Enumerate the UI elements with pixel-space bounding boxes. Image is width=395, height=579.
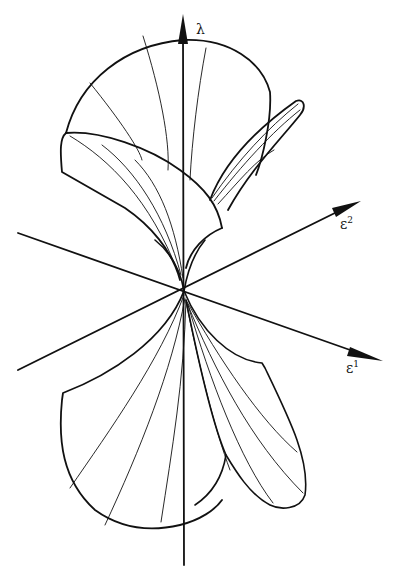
epsilon2-axis (18, 208, 345, 370)
lambda-label-text: λ (196, 21, 205, 37)
upper-back-lobe (66, 36, 270, 180)
surface-diagram (0, 0, 395, 579)
lambda-axis (183, 30, 184, 565)
epsilon2-label-sup: 2 (347, 215, 353, 225)
lower-right-lobe (184, 291, 306, 508)
lambda-arrowhead-icon (178, 14, 188, 44)
lambda-axis-label: λ (196, 22, 205, 36)
epsilon1-label-sup: 1 (353, 359, 359, 369)
epsilon2-axis-label: ε2 (340, 216, 353, 231)
lower-left-lobe (61, 291, 222, 528)
axes (18, 30, 370, 565)
upper-right-petal (210, 100, 304, 210)
epsilon1-axis-label: ε1 (346, 360, 359, 375)
upper-front-sheet (61, 133, 222, 280)
